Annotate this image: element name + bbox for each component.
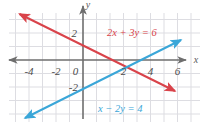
origin-label-zero: 0 bbox=[73, 65, 79, 77]
y-tick-label-neg2: -2 bbox=[69, 81, 79, 93]
x-axis-name-label: x bbox=[193, 54, 199, 65]
x-tick-label-2: 2 bbox=[121, 65, 127, 77]
x-tick-label-neg2: -2 bbox=[51, 65, 61, 77]
x-tick-label-4: 4 bbox=[148, 65, 154, 77]
x-tick-label-neg4: -4 bbox=[24, 65, 34, 77]
coordinate-graph-figure: -4 -2 0 2 4 6 2 -2 x y 2x + 3y = 6 x − 2… bbox=[0, 0, 206, 126]
y-tick-label-2: 2 bbox=[72, 27, 78, 39]
graph-canvas: -4 -2 0 2 4 6 2 -2 x y 2x + 3y = 6 x − 2… bbox=[0, 0, 206, 126]
x-tick-label-6: 6 bbox=[175, 65, 181, 77]
red-line-equation-label: 2x + 3y = 6 bbox=[107, 27, 157, 38]
y-axis-name-label: y bbox=[85, 0, 91, 10]
blue-line-equation-label: x − 2y = 4 bbox=[97, 103, 143, 114]
